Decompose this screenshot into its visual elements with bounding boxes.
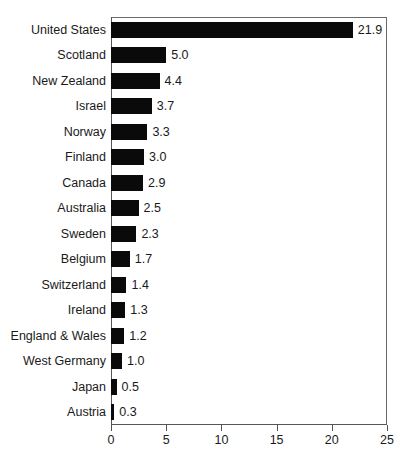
bar-value-label: 1.4: [131, 273, 148, 297]
bar-value-label: 5.0: [171, 43, 188, 67]
bar-container: 1.4: [111, 273, 387, 297]
bar-container: 1.2: [111, 324, 387, 348]
bar[interactable]: [111, 124, 147, 140]
category-label: New Zealand: [32, 69, 106, 93]
bar-value-label: 2.5: [144, 196, 161, 220]
bar-row: Japan0.5: [0, 375, 408, 399]
bar-value-label: 2.9: [148, 171, 165, 195]
bar[interactable]: [111, 175, 143, 191]
category-label: Scotland: [57, 43, 106, 67]
bar-row: Switzerland1.4: [0, 273, 408, 297]
bar[interactable]: [111, 98, 152, 114]
bar[interactable]: [111, 200, 139, 216]
bar-row: Finland3.0: [0, 145, 408, 169]
bar-row: United States21.9: [0, 18, 408, 42]
bar-container: 2.5: [111, 196, 387, 220]
category-label: United States: [31, 18, 106, 42]
category-label: Norway: [64, 120, 106, 144]
bar-container: 3.7: [111, 94, 387, 118]
bar-row: Canada2.9: [0, 171, 408, 195]
x-tick-mark: [166, 425, 167, 431]
bar-row: Ireland1.3: [0, 298, 408, 322]
bar[interactable]: [111, 73, 160, 89]
x-tick-label: 20: [325, 433, 339, 447]
bar-value-label: 4.4: [165, 69, 182, 93]
x-tick-mark: [221, 425, 222, 431]
x-tick-mark: [277, 425, 278, 431]
x-tick-mark: [387, 425, 388, 431]
bar-value-label: 0.5: [122, 375, 139, 399]
bar[interactable]: [111, 353, 122, 369]
category-label: Belgium: [61, 247, 106, 271]
bar[interactable]: [111, 226, 136, 242]
category-label: Canada: [62, 171, 106, 195]
category-label: Japan: [72, 375, 106, 399]
bar-value-label: 1.0: [127, 349, 144, 373]
category-label: Finland: [65, 145, 106, 169]
category-label: Australia: [57, 196, 106, 220]
x-axis: 0510152025: [111, 425, 387, 459]
bar-row: England & Wales1.2: [0, 324, 408, 348]
bar-row: Austria0.3: [0, 400, 408, 424]
x-tick-label: 15: [270, 433, 284, 447]
x-tick-label: 10: [214, 433, 228, 447]
bar-container: 0.5: [111, 375, 387, 399]
bar-row: West Germany1.0: [0, 349, 408, 373]
bar-value-label: 1.2: [129, 324, 146, 348]
bar-row: Norway3.3: [0, 120, 408, 144]
x-tick-mark: [111, 425, 112, 431]
bar-value-label: 21.9: [358, 18, 382, 42]
bar-row: Sweden2.3: [0, 222, 408, 246]
bar-value-label: 0.3: [119, 400, 136, 424]
bar-chart: United States21.9Scotland5.0New Zealand4…: [0, 0, 408, 462]
bar[interactable]: [111, 328, 124, 344]
bar-value-label: 1.3: [130, 298, 147, 322]
bar[interactable]: [111, 149, 144, 165]
bar[interactable]: [111, 379, 117, 395]
bar-container: 3.0: [111, 145, 387, 169]
bar-value-label: 3.3: [152, 120, 169, 144]
bar-row: Australia2.5: [0, 196, 408, 220]
bar-value-label: 3.7: [157, 94, 174, 118]
bar-container: 21.9: [111, 18, 387, 42]
bar[interactable]: [111, 47, 166, 63]
bar[interactable]: [111, 277, 126, 293]
bar[interactable]: [111, 404, 114, 420]
x-tick-label: 5: [163, 433, 170, 447]
bar-row: Belgium1.7: [0, 247, 408, 271]
category-label: Switzerland: [41, 273, 106, 297]
bars-layer: United States21.9Scotland5.0New Zealand4…: [0, 0, 408, 462]
bar-value-label: 1.7: [135, 247, 152, 271]
x-tick-label: 0: [108, 433, 115, 447]
bar-container: 1.3: [111, 298, 387, 322]
category-label: Ireland: [68, 298, 106, 322]
bar-container: 2.3: [111, 222, 387, 246]
x-tick-label: 25: [380, 433, 394, 447]
bar-row: Israel3.7: [0, 94, 408, 118]
bar[interactable]: [111, 22, 353, 38]
category-label: Sweden: [61, 222, 106, 246]
bar-value-label: 3.0: [149, 145, 166, 169]
category-label: Austria: [67, 400, 106, 424]
bar-value-label: 2.3: [141, 222, 158, 246]
bar[interactable]: [111, 302, 125, 318]
bar-row: Scotland5.0: [0, 43, 408, 67]
bar-row: New Zealand4.4: [0, 69, 408, 93]
category-label: Israel: [75, 94, 106, 118]
category-label: West Germany: [23, 349, 106, 373]
bar-container: 3.3: [111, 120, 387, 144]
bar-container: 0.3: [111, 400, 387, 424]
bar-container: 1.7: [111, 247, 387, 271]
bar-container: 4.4: [111, 69, 387, 93]
x-tick-mark: [332, 425, 333, 431]
bar-container: 5.0: [111, 43, 387, 67]
bar[interactable]: [111, 251, 130, 267]
category-label: England & Wales: [11, 324, 106, 348]
bar-container: 1.0: [111, 349, 387, 373]
bar-container: 2.9: [111, 171, 387, 195]
